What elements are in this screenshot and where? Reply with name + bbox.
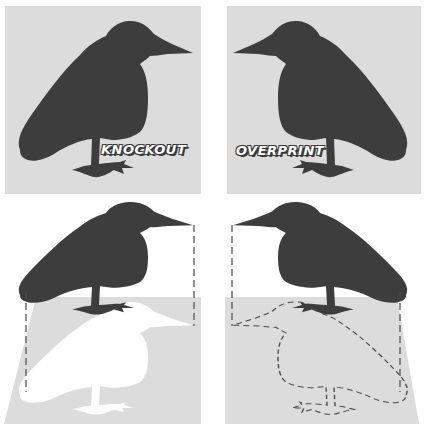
overprint-panel bbox=[227, 6, 421, 194]
overprint-diagram bbox=[225, 202, 419, 424]
knockout-overprint-illustration bbox=[0, 0, 428, 428]
floor-plane bbox=[225, 297, 419, 424]
overprint-label: OVERPRINT bbox=[236, 144, 324, 157]
knockout-panel bbox=[5, 6, 201, 194]
knockout-label: KNOCKOUT bbox=[101, 143, 186, 156]
knockout-diagram bbox=[4, 202, 201, 424]
